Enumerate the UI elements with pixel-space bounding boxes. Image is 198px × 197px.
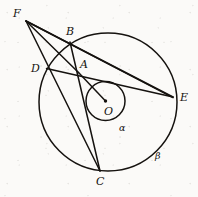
point-label-A: A bbox=[79, 58, 88, 71]
segment-F-to-E-through-A bbox=[26, 21, 173, 98]
circle-label-beta: β bbox=[154, 150, 161, 161]
geometry-figure: F B D A E C O α β bbox=[0, 0, 198, 197]
segment-F-to-C-through-D bbox=[26, 21, 100, 171]
point-label-D: D bbox=[30, 62, 40, 75]
point-label-F: F bbox=[12, 7, 21, 20]
point-label-C: C bbox=[96, 175, 105, 188]
point-label-E: E bbox=[179, 91, 188, 104]
geometry-canvas: F B D A E C O α β bbox=[0, 0, 198, 197]
point-label-O: O bbox=[104, 105, 113, 118]
point-label-B: B bbox=[65, 25, 74, 38]
center-point-dot bbox=[104, 99, 107, 102]
circle-label-alpha: α bbox=[119, 122, 126, 133]
segment-D-to-E-through-A bbox=[47, 69, 174, 98]
